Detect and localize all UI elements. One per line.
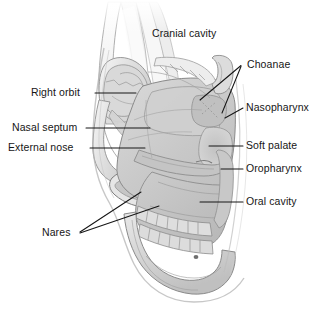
skull-sagittal-illustration xyxy=(0,0,322,311)
label-choanae: Choanae xyxy=(247,59,290,70)
label-soft-palate: Soft palate xyxy=(246,140,297,151)
label-nasal-septum: Nasal septum xyxy=(12,122,77,133)
label-oral-cavity: Oral cavity xyxy=(246,196,297,207)
label-nasopharynx: Nasopharynx xyxy=(246,102,309,113)
label-nares: Nares xyxy=(42,227,71,238)
label-cranial-cavity: Cranial cavity xyxy=(152,28,216,39)
label-oropharynx: Oropharynx xyxy=(246,163,302,174)
label-external-nose: External nose xyxy=(8,142,74,153)
anatomical-figure: Cranial cavity Choanae Nasopharynx Soft … xyxy=(0,0,322,311)
label-right-orbit: Right orbit xyxy=(31,87,80,98)
